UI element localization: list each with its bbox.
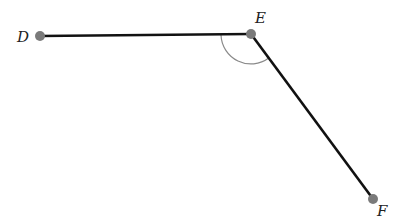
label-f: F [376,202,388,219]
point-d [35,31,45,41]
label-e: E [254,9,266,27]
segment-de [40,34,251,36]
segment-ef [251,34,373,199]
point-e [246,29,256,39]
angle-diagram: D E F [0,0,396,219]
label-d: D [16,28,29,46]
